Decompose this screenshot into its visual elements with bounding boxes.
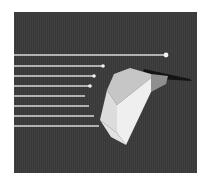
ray-1-endpoint-dot <box>164 53 169 58</box>
right-facet-shaded <box>151 74 168 92</box>
figure-canvas <box>0 0 209 182</box>
scene-graphics <box>14 12 197 173</box>
faceted-wedge-solid <box>100 68 168 145</box>
scene-frame <box>14 12 197 173</box>
ray-3-endpoint-dot <box>92 74 96 78</box>
ray-2-endpoint-dot <box>101 64 105 68</box>
ray-4-endpoint-dot <box>88 84 92 88</box>
